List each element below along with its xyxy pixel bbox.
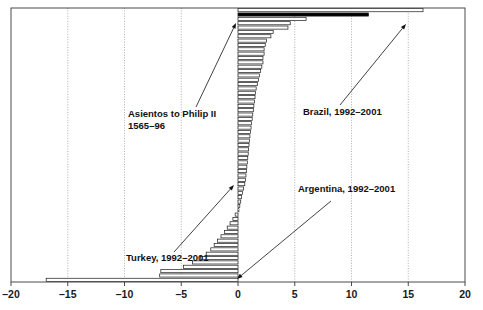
bar: [238, 100, 254, 103]
bar: [238, 161, 247, 164]
annotation-label-argentina: Argentina, 1992–2001: [298, 183, 396, 194]
bar: [238, 209, 239, 212]
bar: [238, 83, 257, 86]
bar: [206, 252, 238, 255]
bar: [238, 126, 251, 129]
bar: [238, 174, 246, 177]
bar: [235, 213, 238, 216]
bar: [238, 130, 250, 133]
bar-chart: –20–15–10–505101520 Asientos to Philip I…: [0, 0, 483, 310]
bar: [238, 148, 249, 151]
bar: [238, 52, 264, 55]
bar: [238, 74, 260, 77]
bar: [238, 65, 262, 68]
bar: [238, 200, 241, 203]
x-tick-label-–5: –5: [175, 288, 187, 300]
bar: [160, 274, 238, 277]
annotation-label-asientos: 1565–96: [128, 120, 165, 131]
annotation-label-turkey: Turkey, 1992–2001: [126, 252, 209, 263]
bar: [238, 22, 290, 25]
bar: [238, 187, 244, 190]
bar: [46, 278, 238, 281]
bar: [238, 35, 271, 38]
bar: [238, 143, 249, 146]
bar: [233, 217, 238, 220]
bar: [238, 139, 249, 142]
x-tick-label-5: 5: [292, 288, 298, 300]
bar: [227, 226, 238, 229]
bar: [238, 26, 288, 29]
bar: [238, 91, 256, 94]
bar: [238, 56, 263, 59]
annotation-label-asientos: Asientos to Philip II: [128, 108, 216, 119]
bar: [238, 196, 242, 199]
bar: [224, 230, 238, 233]
x-tick-label-–10: –10: [116, 288, 134, 300]
x-tick-label-15: 15: [402, 288, 414, 300]
bar: [221, 235, 238, 238]
bar: [184, 265, 238, 268]
bar: [238, 156, 248, 159]
bar: [238, 43, 265, 46]
bar: [238, 122, 252, 125]
bar: [238, 204, 240, 207]
bar: [238, 104, 254, 107]
bar: [238, 152, 248, 155]
bar: [238, 69, 261, 72]
x-tick-label-10: 10: [346, 288, 358, 300]
bar: [238, 183, 245, 186]
bar: [238, 109, 253, 112]
bar: [230, 222, 238, 225]
bar: [238, 178, 245, 181]
bar: [214, 243, 238, 246]
bar: [238, 135, 250, 138]
x-tick-label-0: 0: [235, 288, 241, 300]
x-tick-label-–15: –15: [59, 288, 77, 300]
x-tick-label-–20: –20: [2, 288, 20, 300]
annotation-label-brazil: Brazil, 1992–2001: [303, 106, 382, 117]
bar: [238, 48, 264, 51]
bar: [238, 170, 246, 173]
bar: [238, 87, 256, 90]
bar-highlighted: [238, 13, 369, 16]
bar: [238, 165, 247, 168]
bar: [161, 270, 238, 273]
bar: [238, 78, 258, 81]
bar: [238, 61, 263, 64]
bar: [238, 9, 423, 12]
bar: [238, 39, 266, 42]
bar: [238, 96, 255, 99]
chart-figure: –20–15–10–505101520 Asientos to Philip I…: [0, 0, 483, 310]
bar: [211, 248, 238, 251]
bar: [238, 30, 273, 33]
bar: [238, 191, 243, 194]
bar: [218, 239, 238, 242]
bar: [238, 113, 253, 116]
bar: [238, 17, 306, 20]
x-tick-label-20: 20: [459, 288, 471, 300]
bar: [238, 117, 252, 120]
